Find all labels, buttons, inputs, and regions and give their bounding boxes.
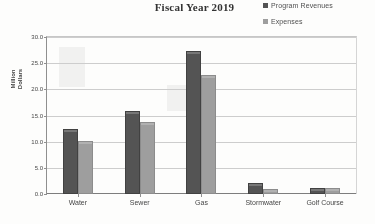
y-tick-label: 10.0 — [31, 139, 43, 145]
bar-expenses — [201, 75, 216, 194]
y-tick-label: 25.0 — [31, 60, 43, 66]
bar-program-revenues — [310, 188, 325, 194]
x-tick-mark — [325, 194, 326, 197]
x-axis-label: Water — [69, 199, 87, 206]
x-tick-mark — [78, 194, 79, 197]
y-tick-label: 5.0 — [35, 165, 43, 171]
x-axis-label: Sewer — [130, 199, 150, 206]
x-tick-mark — [201, 194, 202, 197]
bar-expenses — [78, 141, 93, 194]
plot-wrap: 30.025.020.015.010.05.00.0 WaterSewerGas… — [46, 36, 357, 194]
bar-group: Stormwater — [248, 37, 278, 194]
y-axis-title: Million Dollars — [10, 48, 24, 110]
chart-legend: Program Revenues Expenses — [263, 2, 333, 25]
bar-program-revenues — [186, 51, 201, 194]
bar-groups: WaterSewerGasStormwaterGolf Course — [47, 37, 356, 194]
legend-label-expenses: Expenses — [271, 18, 303, 25]
bar-group: Gas — [186, 37, 216, 194]
x-axis-label: Golf Course — [306, 199, 343, 206]
y-tick-label: 20.0 — [31, 86, 43, 92]
x-tick-mark — [140, 194, 141, 197]
bar-expenses — [325, 188, 340, 194]
bar-group: Golf Course — [310, 37, 340, 194]
bar-program-revenues — [125, 111, 140, 194]
legend-item-expenses: Expenses — [263, 18, 333, 25]
x-axis-label: Stormwater — [245, 199, 281, 206]
legend-label-program-revenues: Program Revenues — [271, 2, 333, 9]
bar-expenses — [263, 189, 278, 194]
x-tick-mark — [263, 194, 264, 197]
bar-expenses — [140, 122, 155, 194]
y-axis-title-line2: Dollars — [17, 48, 24, 110]
x-axis-label: Gas — [195, 199, 208, 206]
y-tick-mark — [44, 194, 47, 195]
y-axis-title-line1: Million — [10, 48, 17, 110]
plot-area: 30.025.020.015.010.05.00.0 WaterSewerGas… — [46, 36, 357, 194]
bar-program-revenues — [248, 183, 263, 194]
legend-item-program-revenues: Program Revenues — [263, 2, 333, 9]
bar-program-revenues — [63, 129, 78, 194]
bar-group: Water — [63, 37, 93, 194]
y-tick-label: 0.0 — [35, 191, 43, 197]
legend-swatch-program-revenues — [263, 3, 268, 8]
legend-swatch-expenses — [263, 19, 268, 24]
y-tick-label: 30.0 — [31, 34, 43, 40]
bar-group: Sewer — [125, 37, 155, 194]
y-tick-label: 15.0 — [31, 113, 43, 119]
